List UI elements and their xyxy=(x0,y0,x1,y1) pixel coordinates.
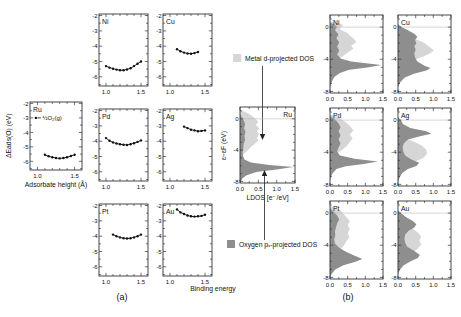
svg-text:1.0: 1.0 xyxy=(361,282,370,288)
svg-text:1.5: 1.5 xyxy=(447,282,456,288)
svg-text:-8: -8 xyxy=(391,182,397,188)
panel-b-label: (b) xyxy=(333,292,363,302)
svg-text:Ag: Ag xyxy=(401,112,410,120)
svg-text:-5: -5 xyxy=(92,59,98,65)
plot-b-au: 0.00.51.01.50-4-8Au xyxy=(386,201,455,290)
svg-text:0: 0 xyxy=(393,117,397,123)
svg-text:-3: -3 xyxy=(92,123,98,129)
svg-text:0.0: 0.0 xyxy=(326,96,335,102)
svg-text:1.0: 1.0 xyxy=(361,96,370,102)
svg-text:Adsorbate height (Å): Adsorbate height (Å) xyxy=(25,180,87,189)
svg-text:1.0: 1.0 xyxy=(102,279,111,285)
svg-text:1.0: 1.0 xyxy=(429,96,438,102)
svg-text:0: 0 xyxy=(325,210,329,216)
svg-text:0: 0 xyxy=(325,117,329,123)
svg-text:-2: -2 xyxy=(92,203,98,209)
plot-b-ag: 0.00.51.01.50-4-8Ag xyxy=(386,108,455,197)
svg-text:1.5: 1.5 xyxy=(201,279,210,285)
svg-text:-4: -4 xyxy=(391,56,397,62)
svg-text:1.0: 1.0 xyxy=(102,184,111,190)
oxygen-dos-pointer-arrow xyxy=(260,170,269,240)
binding-energy-label: Binding energy xyxy=(173,285,253,292)
plot-a-ru-height: ½O₂(g)1.01.5-2-3-4-5-6RuAdsorbate height… xyxy=(16,102,86,192)
plot-b-cu: 0.00.51.01.50-4-8Cu xyxy=(386,15,455,104)
svg-text:-4: -4 xyxy=(391,149,397,155)
svg-text:-2: -2 xyxy=(92,108,98,114)
svg-text:1.5: 1.5 xyxy=(447,189,456,195)
adsorption-energy-ylabel: ΔEads(O) (eV) xyxy=(3,104,13,168)
svg-text:0.0: 0.0 xyxy=(394,282,403,288)
legend-oxygen-p: Oxygen pₓ-projected DOS xyxy=(227,240,317,248)
svg-text:1.5: 1.5 xyxy=(291,186,300,192)
svg-text:-4: -4 xyxy=(156,233,162,239)
svg-text:1.5: 1.5 xyxy=(137,279,146,285)
svg-text:1.5: 1.5 xyxy=(70,173,79,179)
svg-text:0.0: 0.0 xyxy=(394,189,403,195)
svg-text:-4: -4 xyxy=(323,149,329,155)
svg-text:1.5: 1.5 xyxy=(201,184,210,190)
svg-text:-8: -8 xyxy=(391,89,397,95)
svg-text:-6: -6 xyxy=(156,169,162,175)
svg-text:-2: -2 xyxy=(156,203,162,209)
svg-text:-4: -4 xyxy=(323,242,329,248)
svg-text:0.0: 0.0 xyxy=(394,96,403,102)
svg-text:-4: -4 xyxy=(92,138,98,144)
svg-text:1.0: 1.0 xyxy=(273,186,282,192)
svg-text:Ru: Ru xyxy=(283,111,292,118)
panel-a-label: (a) xyxy=(107,292,137,302)
plot-a-pd: 1.01.5-2-3-4-5-6Pd xyxy=(85,109,152,193)
legend-metal-d: Metal d-projected DOS xyxy=(233,54,314,62)
svg-text:-3: -3 xyxy=(92,218,98,224)
svg-text:1.0: 1.0 xyxy=(166,184,175,190)
svg-text:-4: -4 xyxy=(233,147,239,153)
svg-text:-4: -4 xyxy=(156,138,162,144)
svg-text:0.0: 0.0 xyxy=(236,186,245,192)
svg-text:0.5: 0.5 xyxy=(412,189,421,195)
svg-text:1.0: 1.0 xyxy=(166,279,175,285)
svg-text:½O₂(g): ½O₂(g) xyxy=(42,115,61,121)
svg-text:-5: -5 xyxy=(92,154,98,160)
energy-fermi-ylabel: ε−εF (eV) xyxy=(218,127,228,165)
plot-a-cu: 1.01.5-2-3-4-5-6Cu xyxy=(149,14,216,98)
svg-text:-5: -5 xyxy=(156,59,162,65)
svg-text:1.5: 1.5 xyxy=(201,89,210,95)
svg-text:1.5: 1.5 xyxy=(137,184,146,190)
svg-text:-6: -6 xyxy=(92,74,98,80)
svg-text:Pd: Pd xyxy=(102,113,111,120)
svg-text:Au: Au xyxy=(166,208,175,215)
svg-text:Pd: Pd xyxy=(333,112,342,119)
svg-text:-4: -4 xyxy=(92,43,98,49)
svg-text:Pt: Pt xyxy=(333,205,340,212)
svg-text:-6: -6 xyxy=(92,264,98,270)
svg-text:1.0: 1.0 xyxy=(361,189,370,195)
svg-text:Cu: Cu xyxy=(166,18,175,25)
plot-b-ni: 0.00.51.01.50-4-8Ni xyxy=(318,15,387,104)
svg-text:1.5: 1.5 xyxy=(137,89,146,95)
plot-a-ni: 1.01.5-2-3-4-5-6Ni xyxy=(85,14,152,98)
svg-text:-8: -8 xyxy=(323,275,329,281)
metal-d-swatch-icon xyxy=(233,54,241,62)
svg-text:-6: -6 xyxy=(92,169,98,175)
svg-text:0.5: 0.5 xyxy=(344,282,353,288)
svg-text:-4: -4 xyxy=(323,56,329,62)
svg-text:-8: -8 xyxy=(323,89,329,95)
plot-a-pt: 1.01.5-2-3-4-5-6Pt xyxy=(85,204,152,288)
svg-text:0.0: 0.0 xyxy=(326,189,335,195)
svg-text:-8: -8 xyxy=(233,179,239,185)
figure: ΔEads(O) (eV) ½O₂(g)1.01.5-2-3-4-5-6RuAd… xyxy=(0,0,461,317)
metal-d-legend-label: Metal d-projected DOS xyxy=(245,55,314,62)
svg-text:-3: -3 xyxy=(156,218,162,224)
svg-text:1.0: 1.0 xyxy=(102,89,111,95)
svg-text:-4: -4 xyxy=(92,233,98,239)
svg-text:-5: -5 xyxy=(23,144,29,150)
svg-text:-8: -8 xyxy=(323,182,329,188)
svg-text:Au: Au xyxy=(401,205,410,212)
svg-text:-4: -4 xyxy=(391,242,397,248)
svg-text:-3: -3 xyxy=(156,28,162,34)
svg-text:0.5: 0.5 xyxy=(344,96,353,102)
svg-text:-4: -4 xyxy=(23,130,29,136)
svg-text:-2: -2 xyxy=(156,108,162,114)
svg-text:-2: -2 xyxy=(156,13,162,19)
svg-text:-8: -8 xyxy=(391,275,397,281)
svg-text:-6: -6 xyxy=(156,74,162,80)
